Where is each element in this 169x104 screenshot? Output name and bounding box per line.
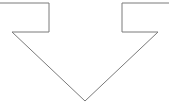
down-arrow-diagram [0,0,169,104]
down-arrow-icon [0,3,169,101]
